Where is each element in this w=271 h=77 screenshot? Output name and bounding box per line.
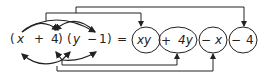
- paren-close-2: ): [107, 32, 112, 46]
- paren-open-1: (: [10, 32, 15, 46]
- paren-open-2: (: [67, 32, 72, 46]
- op-plus: +: [34, 32, 44, 46]
- equals-sign: =: [117, 32, 127, 46]
- rhs-sign-plus: +: [161, 34, 171, 48]
- arrow-bottom-y: [62, 52, 70, 60]
- rhs-term-xy: xy: [136, 33, 152, 47]
- arrow-bottom-x: [22, 54, 62, 64]
- connector-minus4: [76, 7, 244, 26]
- term-x: x: [16, 32, 25, 46]
- arrow-x-to-1: [22, 20, 95, 32]
- rhs-sign-minus-2: −: [231, 33, 241, 47]
- term-y: y: [72, 32, 81, 46]
- arrow-bottom-4: [56, 52, 62, 60]
- rhs-term-4: 4: [246, 33, 254, 47]
- connector-minus-x: [57, 54, 213, 71]
- rhs-sign-minus-1: −: [201, 33, 211, 47]
- foil-diagram: ( x + 4 ) ( y − 1 ) = xy + 4y − x − 4: [0, 0, 271, 77]
- rhs-term-4y: 4y: [178, 33, 194, 47]
- op-minus: −: [87, 32, 97, 46]
- arrow-bottom-1: [62, 52, 96, 60]
- term-1: 1: [99, 32, 107, 46]
- paren-close-1: ): [58, 32, 63, 46]
- rhs-term-x: x: [214, 33, 223, 47]
